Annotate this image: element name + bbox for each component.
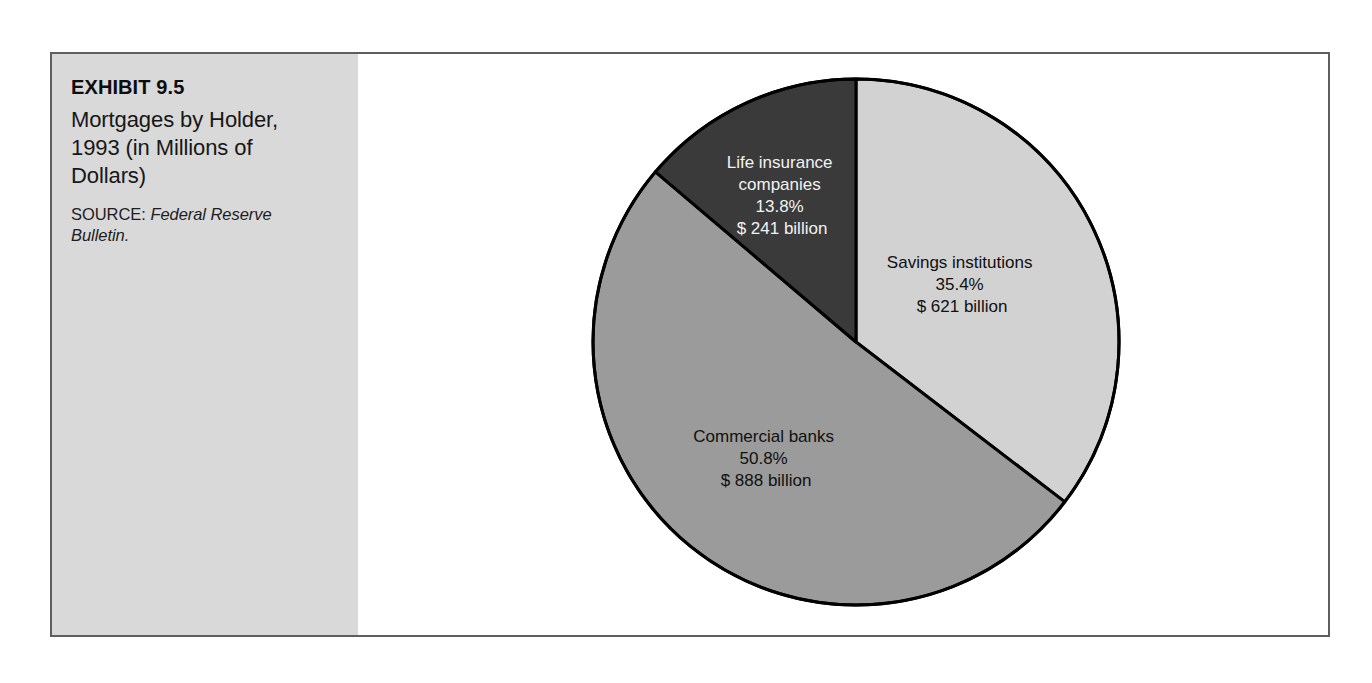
pie-chart: Savings institutions 35.4% $ 621 billion… <box>590 76 1122 608</box>
pie-chart-svg: Savings institutions 35.4% $ 621 billion… <box>590 76 1122 608</box>
exhibit-figure-frame: EXHIBIT 9.5 Mortgages by Holder, 1993 (i… <box>50 52 1330 637</box>
exhibit-caption-panel: EXHIBIT 9.5 Mortgages by Holder, 1993 (i… <box>52 54 358 635</box>
exhibit-number: EXHIBIT 9.5 <box>71 76 338 99</box>
exhibit-source: SOURCE: Federal Reserve Bulletin. <box>71 204 286 247</box>
chart-area: Savings institutions 35.4% $ 621 billion… <box>358 54 1328 635</box>
exhibit-source-label: SOURCE: <box>71 205 146 223</box>
exhibit-title: Mortgages by Holder, 1993 (in Millions o… <box>71 106 321 190</box>
